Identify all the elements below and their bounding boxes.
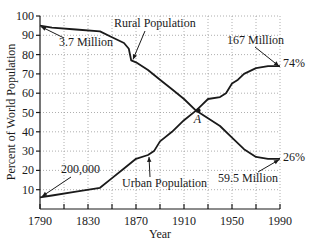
y-tick-label: 30 (22, 144, 34, 158)
x-tick-label: 1950 (220, 214, 244, 228)
rural-end-percent: 26% (283, 150, 305, 164)
population-chart: 1020304050607080901001790183018701910195… (0, 0, 309, 243)
y-tick-label: 70 (22, 67, 34, 81)
x-tick-label: 1830 (76, 214, 100, 228)
urban-start-label: 200,000 (61, 162, 100, 176)
x-axis-title: Year (149, 227, 171, 241)
y-tick-label: 50 (22, 106, 34, 120)
urban-end-label: 167 Million (227, 33, 284, 47)
rural-population-label: Rural Population (114, 16, 196, 30)
y-tick-label: 90 (22, 28, 34, 42)
urban-population-arrowhead (147, 157, 151, 162)
x-tick-label: 1790 (28, 214, 52, 228)
y-tick-label: 40 (22, 125, 34, 139)
rural-end-label: 59.5 Million (218, 171, 278, 185)
annotations: Rural Population3.7 Million167 Million74… (41, 16, 305, 196)
y-axis-title: Percent of World Population (4, 44, 18, 180)
x-tick-label: 1910 (172, 214, 196, 228)
y-tick-label: 60 (22, 86, 34, 100)
urban-population-label: Urban Population (122, 176, 207, 190)
urban-end-percent: 74% (283, 56, 305, 70)
y-tick-label: 10 (22, 183, 34, 197)
crossing-point-label: A (193, 112, 202, 126)
x-tick-label: 1990 (268, 214, 292, 228)
y-tick-label: 20 (22, 163, 34, 177)
y-tick-label: 100 (16, 9, 34, 23)
y-tick-label: 80 (22, 48, 34, 62)
x-tick-label: 1870 (124, 214, 148, 228)
rural-start-label: 3.7 Million (59, 35, 113, 49)
